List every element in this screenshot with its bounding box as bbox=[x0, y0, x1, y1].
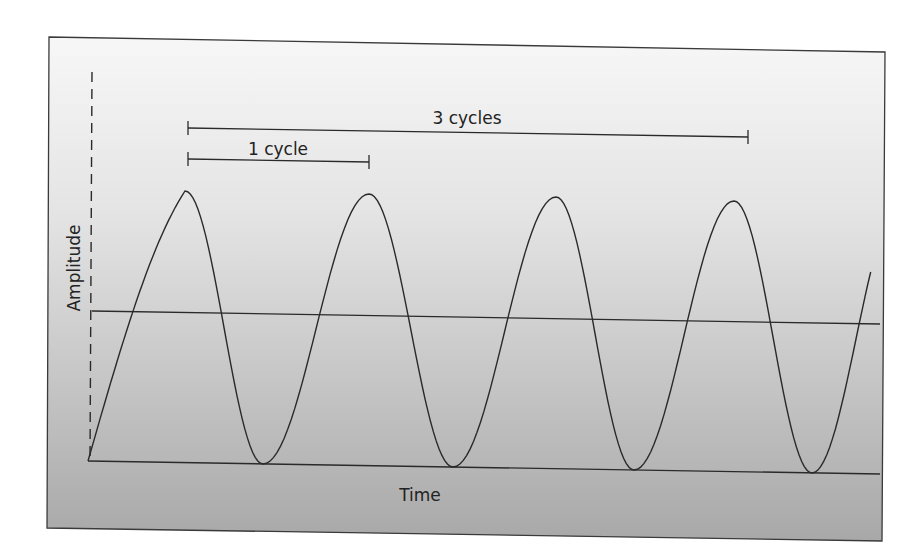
three-cycles-label: 3 cycles bbox=[432, 108, 501, 128]
cycle-diagram: 3 cycles 1 cycle Amplitude Time bbox=[0, 0, 924, 557]
time-label: Time bbox=[398, 485, 441, 505]
one-cycle-label: 1 cycle bbox=[248, 139, 308, 159]
amplitude-label: Amplitude bbox=[64, 224, 84, 311]
